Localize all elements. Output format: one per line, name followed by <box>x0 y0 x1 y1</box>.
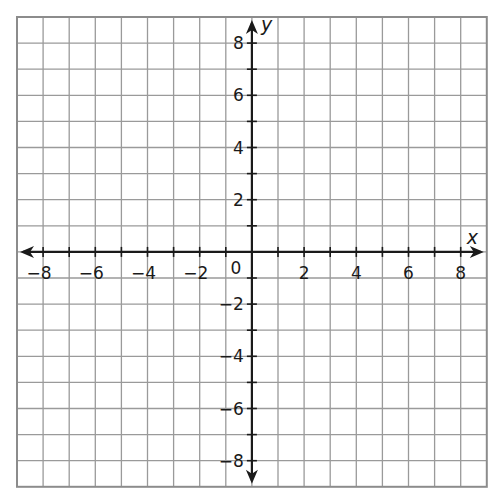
x-axis-label: x <box>466 226 479 248</box>
y-tick-label: 4 <box>233 138 244 158</box>
x-tick-label: −8 <box>27 263 52 283</box>
origin-label: 0 <box>230 258 241 278</box>
y-tick-label: 2 <box>233 190 244 210</box>
coordinate-plane: −8−6−4−224688642−2−4−6−8 x y 0 <box>0 0 492 504</box>
x-tick-label: −6 <box>79 263 104 283</box>
x-tick-label: 6 <box>403 263 414 283</box>
x-tick-label: −4 <box>131 263 156 283</box>
y-tick-label: −2 <box>219 294 244 314</box>
x-tick-label: −2 <box>183 263 208 283</box>
y-tick-label: −6 <box>219 399 244 419</box>
y-axis-label: y <box>260 13 273 35</box>
x-tick-label: 8 <box>455 263 466 283</box>
y-tick-label: −4 <box>219 346 244 366</box>
x-tick-label: 2 <box>299 263 310 283</box>
y-tick-label: −8 <box>219 451 244 471</box>
y-tick-label: 8 <box>233 33 244 53</box>
y-tick-label: 6 <box>233 85 244 105</box>
axes <box>20 20 484 484</box>
x-tick-label: 4 <box>351 263 362 283</box>
